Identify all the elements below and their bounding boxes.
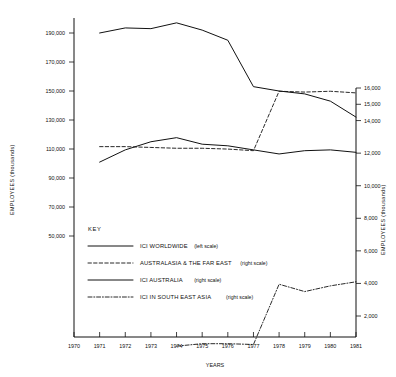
legend-items: ICI WORLDWIDE(left scale)AUSTRALASIA & T… bbox=[88, 243, 268, 300]
left-tick-label: 150,000 bbox=[46, 88, 66, 94]
left-tick-label: 130,000 bbox=[46, 117, 66, 123]
x-tick-label: 1971 bbox=[94, 343, 106, 349]
left-axis-ticks: 190,000170,000150,000130,000110,00090,00… bbox=[46, 30, 75, 239]
right-tick-label: 12,000 bbox=[364, 150, 381, 156]
x-tick-label: 1979 bbox=[299, 343, 311, 349]
legend-label-2: ICI AUSTRALIA bbox=[140, 277, 183, 283]
x-axis-ticks: 1970197119721973197419751976197719781979… bbox=[68, 332, 362, 349]
left-tick-label: 70,000 bbox=[49, 204, 66, 210]
left-tick-label: 90,000 bbox=[49, 175, 66, 181]
x-tick-label: 1970 bbox=[68, 343, 80, 349]
x-tick-label: 1981 bbox=[350, 343, 362, 349]
chart-container: 190,000170,000150,000130,000110,00090,00… bbox=[0, 0, 396, 377]
legend-scale-2: (right scale) bbox=[194, 277, 221, 283]
legend-scale-3: (right scale) bbox=[226, 294, 253, 300]
right-tick-label: 2,000 bbox=[364, 313, 378, 319]
legend-title: KEY bbox=[88, 226, 101, 232]
left-tick-label: 110,000 bbox=[46, 146, 65, 152]
left-axis-title: EMPLOYEES (thousands) bbox=[9, 144, 15, 215]
series-line-2 bbox=[100, 138, 356, 162]
legend-scale-1: (right scale) bbox=[240, 260, 267, 266]
right-tick-label: 14,000 bbox=[364, 118, 381, 124]
legend-label-1: AUSTRALASIA & THE FAR EAST bbox=[140, 260, 232, 266]
right-tick-label: 15,000 bbox=[364, 101, 381, 107]
legend-scale-0: (left scale) bbox=[194, 243, 218, 249]
chart-legend: KEY ICI WORLDWIDE(left scale)AUSTRALASIA… bbox=[88, 226, 268, 300]
right-tick-label: 4,000 bbox=[364, 280, 378, 286]
right-axis-ticks: 16,00015,00014,00012,00010,0008,0006,000… bbox=[356, 85, 381, 319]
right-tick-label: 8,000 bbox=[364, 215, 378, 221]
x-axis-title: YEARS bbox=[206, 362, 225, 368]
x-tick-label: 1972 bbox=[119, 343, 131, 349]
legend-label-3: ICI IN SOUTH EAST ASIA bbox=[140, 294, 211, 300]
series-line-3 bbox=[177, 282, 356, 346]
x-tick-label: 1980 bbox=[324, 343, 336, 349]
right-tick-label: 10,000 bbox=[364, 183, 381, 189]
left-tick-label: 190,000 bbox=[46, 30, 66, 36]
x-tick-label: 1973 bbox=[145, 343, 157, 349]
right-axis-title: EMPLOYEES (thousands) bbox=[380, 184, 386, 255]
left-tick-label: 170,000 bbox=[46, 59, 66, 65]
line-chart: 190,000170,000150,000130,000110,00090,00… bbox=[0, 0, 396, 377]
right-tick-label: 16,000 bbox=[364, 85, 381, 91]
x-tick-label: 1978 bbox=[273, 343, 285, 349]
series-line-0 bbox=[100, 23, 356, 117]
left-tick-label: 50,000 bbox=[49, 233, 66, 239]
legend-label-0: ICI WORLDWIDE bbox=[140, 243, 188, 249]
right-tick-label: 6,000 bbox=[364, 248, 378, 254]
series-line-1 bbox=[100, 91, 356, 150]
